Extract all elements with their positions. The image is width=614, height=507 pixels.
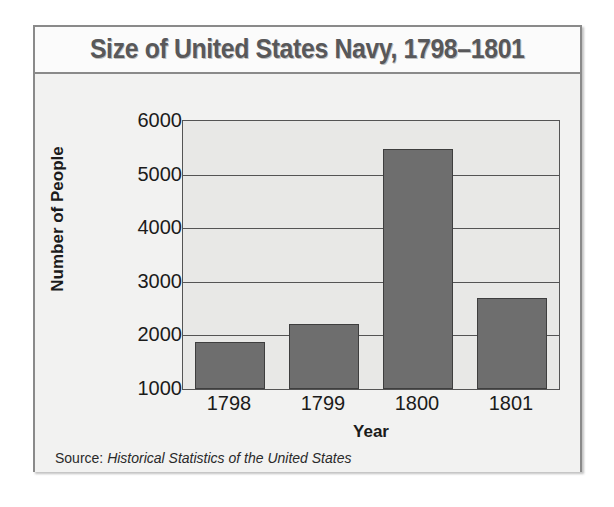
chart-body: Number of People 60005000400030002000100… <box>35 74 580 472</box>
y-axis-tick-label: 1000 <box>138 377 183 400</box>
source-note: Source: Historical Statistics of the Uni… <box>55 450 351 466</box>
plot-area <box>182 120 560 390</box>
source-title: Historical Statistics of the United Stat… <box>107 450 351 466</box>
x-axis-title: Year <box>182 422 560 442</box>
y-axis-tick-label: 3000 <box>138 269 183 292</box>
y-axis-tick-label: 2000 <box>138 323 183 346</box>
y-axis-tick-label: 6000 <box>138 109 183 132</box>
chart-figure: Size of United States Navy, 1798–1801 Nu… <box>33 25 582 472</box>
bar-series <box>183 121 559 389</box>
x-axis-tick-label: 1799 <box>301 392 346 415</box>
x-axis-tick-label: 1800 <box>395 392 440 415</box>
y-axis-tick-label: 5000 <box>138 162 183 185</box>
y-axis-title-wrapper: Number of People <box>41 74 75 364</box>
page-title: Size of United States Navy, 1798–1801 <box>90 34 525 65</box>
bar-1800 <box>383 149 453 389</box>
bar-1799 <box>289 324 359 389</box>
x-axis-tick-label: 1798 <box>207 392 252 415</box>
y-axis-title: Number of People <box>48 146 68 291</box>
chart-title-band: Size of United States Navy, 1798–1801 <box>35 27 580 74</box>
bar-1798 <box>195 342 265 389</box>
source-label: Source: <box>55 450 103 466</box>
y-axis-tick-label: 4000 <box>138 216 183 239</box>
bar-1801 <box>477 298 547 389</box>
x-axis-tick-label: 1801 <box>489 392 534 415</box>
x-axis-tick-labels: 1798179918001801 <box>182 392 560 422</box>
y-axis-tick-labels: 600050004000300020001000 <box>75 74 182 364</box>
